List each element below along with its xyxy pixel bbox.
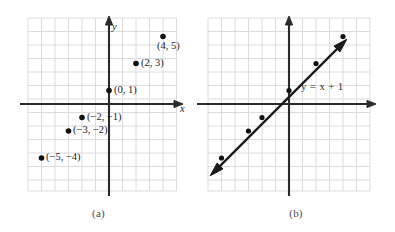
caption-a: (a) (0, 207, 197, 219)
equation-label: y = x + 1 (301, 81, 344, 92)
panel-a-svg (0, 0, 197, 205)
caption-b: (b) (197, 207, 395, 219)
point-neg3-neg2-b (246, 128, 251, 133)
point-0-1 (106, 88, 112, 94)
point-4-5-b (340, 34, 345, 39)
point-neg5-neg4-b (219, 155, 224, 160)
axes-b (197, 16, 376, 196)
point-neg2-neg1 (79, 115, 85, 121)
panel-a-scatter: x y (4, 5) (2, 3) (0, 1) (−2, −1) (−3, −… (0, 0, 197, 232)
y-axis-label-a: y (112, 22, 117, 33)
y-axis-arrowhead-b (285, 16, 292, 25)
point-0-1-b (286, 88, 291, 93)
x-axis-label-a: x (180, 104, 185, 115)
data-points-a (39, 34, 166, 161)
point-2-3 (133, 61, 139, 67)
panel-a-plot-area (0, 0, 197, 205)
point-neg2-neg1-b (259, 115, 264, 120)
panel-b-line: y = x + 1 (b) (197, 0, 395, 232)
point-neg3-neg2 (66, 128, 72, 134)
point-neg5-neg4 (39, 155, 45, 161)
x-axis-arrowhead-b (367, 100, 376, 107)
point-label-neg5-neg4: (−5, −4) (46, 152, 81, 163)
line-segment (219, 48, 337, 166)
point-4-5 (160, 34, 166, 40)
line-y-equals-x-plus-1 (210, 39, 347, 176)
data-points-b (219, 34, 346, 161)
panel-b-svg (197, 0, 395, 205)
point-label-neg3-neg2: (−3, −2) (73, 125, 108, 136)
panel-b-plot-area (197, 0, 395, 205)
point-label-4-5: (4, 5) (157, 41, 180, 52)
point-label-0-1: (0, 1) (114, 85, 137, 96)
point-label-neg2-neg1: (−2, −1) (87, 112, 122, 123)
point-label-2-3: (2, 3) (141, 58, 164, 69)
figure-coordinate-plane-and-line: x y (4, 5) (2, 3) (0, 1) (−2, −1) (−3, −… (0, 0, 395, 232)
point-2-3-b (313, 61, 318, 66)
